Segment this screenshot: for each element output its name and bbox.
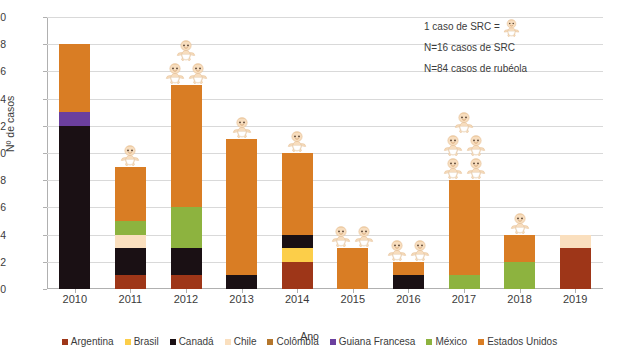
x-tick-mark — [130, 289, 131, 293]
src-icon-row — [176, 39, 196, 61]
legend-swatch — [330, 339, 336, 345]
bar-segment[interactable] — [115, 221, 146, 235]
src-icon-stack — [329, 225, 377, 247]
baby-icon — [387, 239, 407, 261]
legend-item-brasil[interactable]: Brasil — [125, 336, 159, 347]
bar-segment[interactable] — [449, 180, 480, 275]
y-tick-mark — [43, 126, 47, 127]
y-tick-mark — [43, 153, 47, 154]
bar-segment[interactable] — [560, 248, 591, 289]
src-icon-row — [120, 144, 140, 166]
x-tick-mark — [186, 289, 187, 293]
src-icon-row — [454, 111, 474, 133]
legend-item-colômbia[interactable]: Colômbia — [267, 336, 318, 347]
bar-segment[interactable] — [171, 207, 202, 248]
bar-segment[interactable] — [282, 153, 313, 235]
legend-swatch — [426, 339, 432, 345]
bar-segment[interactable] — [393, 275, 424, 289]
legend-swatch — [267, 339, 273, 345]
legend-label: Estados Unidos — [487, 336, 557, 347]
x-tick-label: 2019 — [560, 293, 591, 305]
bar-segment[interactable] — [226, 139, 257, 275]
legend-item-estados-unidos[interactable]: Estados Unidos — [478, 336, 557, 347]
src-icon-row — [387, 239, 430, 261]
bar-segment[interactable] — [282, 235, 313, 249]
bar-group[interactable]: 2015 — [337, 17, 368, 289]
bar-segment[interactable] — [337, 248, 368, 289]
baby-icon — [410, 239, 430, 261]
bar-segment[interactable] — [115, 235, 146, 249]
x-tick-mark — [242, 289, 243, 293]
y-tick-label: 6 — [0, 201, 6, 213]
legend-item-méxico[interactable]: México — [426, 336, 467, 347]
legend-item-canadá[interactable]: Canadá — [170, 336, 214, 347]
y-tick-label: 20 — [0, 11, 6, 23]
bar-group[interactable]: 2013 — [226, 17, 257, 289]
bar-segment[interactable] — [171, 248, 202, 275]
bar-segment[interactable] — [59, 44, 90, 112]
y-tick-label: 14 — [0, 93, 6, 105]
baby-icon — [466, 157, 486, 179]
bar-segment[interactable] — [282, 262, 313, 289]
legend-label: Canadá — [179, 336, 214, 347]
y-tick-label: 2 — [0, 256, 6, 268]
legend-item-guiana-francesa[interactable]: Guiana Francesa — [330, 336, 416, 347]
bar-segment[interactable] — [226, 275, 257, 289]
bar-segment[interactable] — [171, 275, 202, 289]
baby-icon — [165, 62, 185, 84]
bar-group[interactable]: 2019 — [560, 17, 591, 289]
x-tick-mark — [520, 289, 521, 293]
x-tick-label: 2017 — [449, 293, 480, 305]
bar-segment[interactable] — [393, 262, 424, 276]
legend-label: México — [435, 336, 467, 347]
legend-label: Argentina — [71, 336, 114, 347]
bar-segment[interactable] — [504, 235, 535, 262]
x-tick-label: 2018 — [504, 293, 535, 305]
y-tick-label: 12 — [0, 120, 6, 132]
src-icon-stack — [384, 239, 432, 261]
annotation-text-3: N=84 casos de rubéola — [424, 64, 527, 75]
x-tick-mark — [297, 289, 298, 293]
y-tick-mark — [43, 262, 47, 263]
y-tick-label: 10 — [0, 147, 6, 159]
legend-label: Guiana Francesa — [339, 336, 416, 347]
bar-segment[interactable] — [504, 262, 535, 289]
bar-segment[interactable] — [282, 248, 313, 262]
y-tick-label: 4 — [0, 229, 6, 241]
x-tick-label: 2013 — [226, 293, 257, 305]
legend-swatch — [170, 339, 176, 345]
baby-icon — [500, 18, 520, 37]
x-tick-mark — [464, 289, 465, 293]
x-tick-mark — [575, 289, 576, 293]
y-tick-label: 16 — [0, 65, 6, 77]
src-icon-row — [331, 225, 374, 247]
src-icon-stack — [162, 39, 210, 84]
bar-group[interactable]: 2010 — [59, 17, 90, 289]
bar-segment[interactable] — [115, 275, 146, 289]
y-tick-mark — [43, 235, 47, 236]
bar-segment[interactable] — [115, 167, 146, 221]
bar-segment[interactable] — [171, 85, 202, 207]
legend-item-argentina[interactable]: Argentina — [62, 336, 114, 347]
bar-segment[interactable] — [449, 275, 480, 289]
bar-segment[interactable] — [59, 126, 90, 289]
annotation-line-src-total: N=16 casos de SRC — [424, 38, 527, 59]
bar-segment[interactable] — [115, 248, 146, 275]
bar-segment[interactable] — [560, 235, 591, 249]
bar-group[interactable]: 2014 — [282, 17, 313, 289]
x-tick-label: 2012 — [171, 293, 202, 305]
rubella-cases-stacked-bar-chart: Nº de casos Ano 201020112012201320142015… — [0, 0, 619, 361]
legend-swatch — [125, 339, 131, 345]
baby-icon — [466, 134, 486, 156]
x-tick-label: 2016 — [393, 293, 424, 305]
bar-segment[interactable] — [59, 112, 90, 126]
y-tick-mark — [43, 17, 47, 18]
baby-icon — [443, 157, 463, 179]
baby-icon — [232, 116, 252, 138]
y-tick-mark — [43, 207, 47, 208]
legend-swatch — [225, 339, 231, 345]
baby-icon — [176, 39, 196, 61]
legend-item-chile[interactable]: Chile — [225, 336, 257, 347]
baby-icon — [120, 144, 140, 166]
src-icon-stack — [496, 212, 544, 234]
